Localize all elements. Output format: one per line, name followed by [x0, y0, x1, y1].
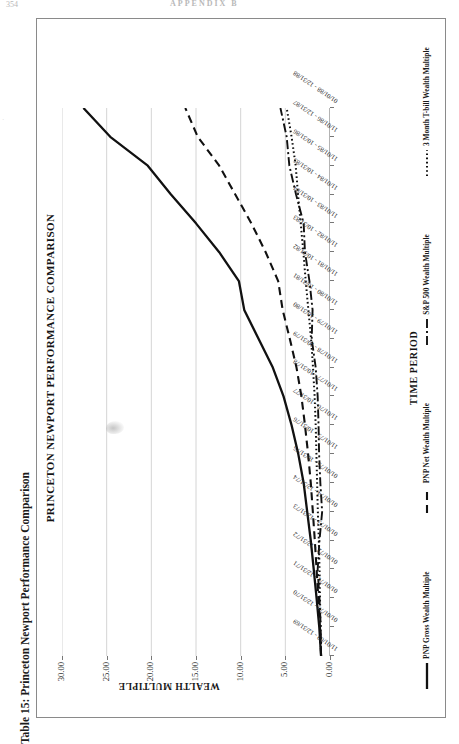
legend-label: PNP Net Wealth Multiple — [422, 403, 431, 483]
legend-label: S&P 500 Wealth Multiple — [422, 234, 431, 315]
y-tick-label: 25.00 — [101, 662, 111, 696]
legend-swatch-dash-dot-icon — [423, 319, 431, 345]
x-tick-mark — [330, 655, 334, 656]
legend-swatch-solid-icon — [423, 663, 431, 689]
x-tick-mark — [330, 453, 334, 454]
plot-area — [62, 108, 330, 656]
y-tick-mark — [241, 656, 242, 660]
y-tick-label: 30.00 — [56, 662, 66, 696]
x-axis-title: TIME PERIOD — [408, 18, 419, 718]
x-tick-mark — [330, 367, 334, 368]
performance-chart: PRINCETON NEWPORT PERFORMANCE COMPARISON… — [36, 18, 446, 718]
x-tick-mark — [330, 511, 334, 512]
x-tick-mark — [330, 309, 334, 310]
figure-container: PRINCETON NEWPORT PERFORMANCE COMPARISON… — [29, 12, 453, 724]
legend-item-2: S&P 500 Wealth Multiple — [422, 234, 431, 345]
scan-edge-mark: · — [2, 116, 4, 124]
x-tick-mark — [330, 251, 334, 252]
y-tick-label: 20.00 — [145, 662, 155, 696]
y-axis-title: WEALTH MULTIPLE — [99, 681, 239, 691]
y-tick-mark — [285, 656, 286, 660]
x-tick-mark — [330, 395, 334, 396]
scan-smudge — [106, 421, 124, 434]
legend-swatch-dotted-icon — [423, 150, 431, 176]
x-tick-mark — [330, 424, 334, 425]
x-tick-mark — [330, 107, 334, 108]
y-tick-label: 5.00 — [279, 662, 289, 696]
x-tick-mark — [330, 568, 334, 569]
legend-item-3: 3 Month T-bill Wealth Multiple — [422, 47, 431, 176]
legend-label: 3 Month T-bill Wealth Multiple — [422, 47, 431, 146]
y-tick-label: 15.00 — [190, 662, 200, 696]
x-tick-mark — [330, 194, 334, 195]
y-tick-mark — [196, 656, 197, 660]
legend-swatch-dashed-icon — [423, 487, 431, 513]
y-tick-mark — [62, 656, 63, 660]
legend-label: PNP Gross Wealth Multiple — [422, 571, 431, 658]
x-tick-mark — [330, 338, 334, 339]
plot-svg — [62, 108, 330, 656]
y-tick-label: 0.00 — [324, 662, 334, 696]
x-tick-mark — [330, 280, 334, 281]
y-tick-mark — [330, 656, 331, 660]
x-tick-mark — [330, 540, 334, 541]
x-tick-mark — [330, 136, 334, 137]
y-tick-mark — [107, 656, 108, 660]
legend-item-1: PNP Net Wealth Multiple — [422, 403, 431, 513]
y-tick-label: 10.00 — [235, 662, 245, 696]
x-tick-mark — [330, 482, 334, 483]
running-head: APPENDIX B — [170, 0, 239, 8]
x-tick-mark — [330, 597, 334, 598]
page-folio: 354 — [6, 0, 18, 9]
y-tick-mark — [151, 656, 152, 660]
x-tick-mark — [330, 222, 334, 223]
x-tick-mark — [330, 626, 334, 627]
x-tick-mark — [330, 165, 334, 166]
chart-legend: PNP Gross Wealth MultiplePNP Net Wealth … — [422, 18, 431, 718]
chart-title: PRINCETON NEWPORT PERFORMANCE COMPARISON — [44, 18, 56, 718]
legend-item-0: PNP Gross Wealth Multiple — [422, 571, 431, 688]
